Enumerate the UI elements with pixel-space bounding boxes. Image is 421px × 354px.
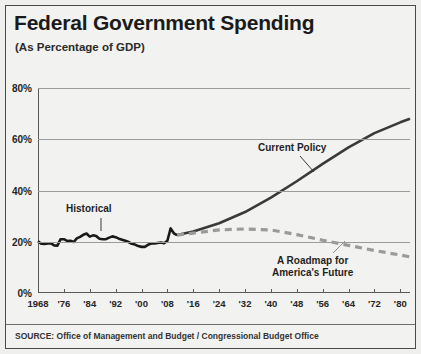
gridline <box>38 88 410 89</box>
gridline <box>38 139 410 140</box>
series-line <box>177 229 410 257</box>
y-axis-label: 80% <box>12 83 32 94</box>
x-axis-label: '72 <box>368 298 381 309</box>
page-title: Federal Government Spending <box>14 11 314 35</box>
x-axis-tick <box>271 289 272 293</box>
y-axis-label: 20% <box>12 236 32 247</box>
x-axis-tick <box>245 289 246 293</box>
x-axis-tick <box>38 289 39 293</box>
x-axis-label: '32 <box>239 298 252 309</box>
x-axis-tick <box>64 289 65 293</box>
x-axis-tick <box>374 289 375 293</box>
x-axis-label: '64 <box>342 298 355 309</box>
series-line <box>177 119 410 235</box>
annotation-roadmap-line1: A Roadmap for <box>272 255 353 267</box>
x-axis-label: '84 <box>83 298 96 309</box>
plot-area: 0%20%40%60%80%1968'76'84'92'00'08'16'24'… <box>38 88 410 293</box>
x-axis-tick <box>116 289 117 293</box>
x-axis-tick <box>219 289 220 293</box>
x-axis-label: '08 <box>161 298 174 309</box>
chart-subtitle: (As Percentage of GDP) <box>15 41 145 53</box>
y-axis-label: 40% <box>12 185 32 196</box>
x-axis-label: '48 <box>290 298 303 309</box>
x-axis-label: '40 <box>264 298 277 309</box>
x-axis-tick <box>349 289 350 293</box>
x-axis-tick <box>323 289 324 293</box>
chart-figure: Federal Government Spending (As Percenta… <box>0 0 421 354</box>
x-axis-label: '16 <box>187 298 200 309</box>
x-axis-label: '80 <box>394 298 407 309</box>
x-axis-label: '00 <box>135 298 148 309</box>
x-axis-label: '92 <box>109 298 122 309</box>
source-divider <box>6 324 415 325</box>
x-axis-label: '76 <box>57 298 70 309</box>
x-axis-tick <box>400 289 401 293</box>
x-axis-tick <box>142 289 143 293</box>
y-axis-label: 60% <box>12 134 32 145</box>
x-axis-tick <box>167 289 168 293</box>
gridline <box>38 191 410 192</box>
x-axis-label: '24 <box>213 298 226 309</box>
y-axis-label: 0% <box>18 288 32 299</box>
source-note: SOURCE: Office of Management and Budget … <box>15 331 319 341</box>
x-axis-label: 1968 <box>27 298 48 309</box>
series-line <box>38 228 177 246</box>
gridline <box>38 242 410 243</box>
annotation-roadmap: A Roadmap for America's Future <box>272 255 353 279</box>
x-axis-label: '56 <box>316 298 329 309</box>
annotation-roadmap-line2: America's Future <box>272 267 353 279</box>
x-axis-tick <box>297 289 298 293</box>
annotation-historical: Historical <box>66 203 112 215</box>
annotation-current-policy: Current Policy <box>258 142 326 154</box>
x-axis-tick <box>90 289 91 293</box>
x-axis-tick <box>193 289 194 293</box>
